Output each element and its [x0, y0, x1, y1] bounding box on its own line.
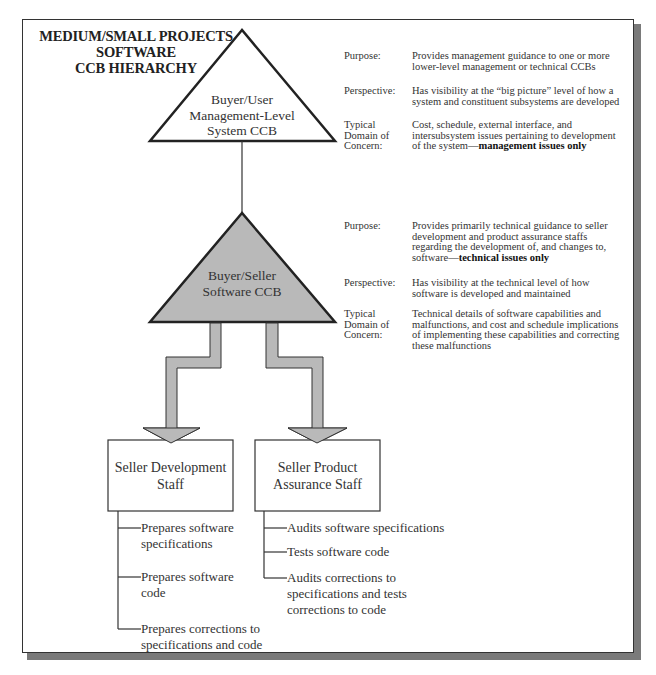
dev-task-item: Prepares software code — [141, 569, 234, 601]
desc-line: lower-level management or technical CCBs — [412, 62, 637, 73]
task-line: Prepares corrections to — [141, 621, 262, 637]
task-line: Audits software specifications — [287, 520, 444, 536]
dev-task-item: Prepares corrections to specifications a… — [141, 621, 262, 653]
seller-dev-label: Seller Development Staff — [108, 459, 233, 493]
domain-label: Typical Domain of Concern: — [344, 120, 412, 152]
purpose-text: Provides management guidance to one or m… — [412, 51, 637, 72]
task-line: specifications and code — [141, 637, 262, 653]
desc-line: Has visibility at the technical level of… — [412, 278, 637, 289]
desc-line: Technical details of software capabiliti… — [412, 309, 637, 320]
task-line: Audits corrections to — [287, 570, 407, 586]
desc-line: Provides primarily technical guidance to… — [412, 221, 637, 232]
dev-task-item: Prepares software specifications — [141, 520, 234, 552]
seller-dev-label-line: Seller Development — [108, 459, 233, 476]
purpose-label: Purpose: — [344, 51, 412, 62]
seller-pa-label-line: Assurance Staff — [255, 476, 380, 493]
desc-line: Cost, schedule, external interface, and — [412, 120, 637, 131]
arrow-to-seller-dev — [143, 323, 221, 443]
seller-pa-label-line: Seller Product — [255, 459, 380, 476]
domain-label: Typical Domain of Concern: — [344, 309, 412, 341]
label-line: Concern: — [344, 330, 412, 341]
pa-task-bracket — [264, 511, 287, 578]
perspective-label: Perspective: — [344, 86, 412, 97]
top-ccb-label: Buyer/User Management-Level System CCB — [172, 92, 312, 139]
desc-prefix: of the system— — [412, 140, 479, 151]
label-line: Typical — [344, 120, 412, 131]
pa-task-item: Tests software code — [287, 544, 389, 560]
desc-line: software—technical issues only — [412, 253, 637, 264]
purpose-label: Purpose: — [344, 221, 412, 232]
top-ccb-label-line: System CCB — [172, 123, 312, 139]
domain-text: Cost, schedule, external interface, and … — [412, 120, 637, 152]
title-line: MEDIUM/SMALL PROJECTS — [38, 28, 234, 44]
desc-line: Has visibility at the “big picture” leve… — [412, 86, 637, 97]
task-line: Prepares software — [141, 520, 234, 536]
seller-dev-label-line: Staff — [108, 476, 233, 493]
desc-line: software is developed and maintained — [412, 289, 637, 300]
mid-ccb-label-line: Buyer/Seller — [172, 268, 312, 284]
title-line: CCB HIERARCHY — [38, 60, 234, 76]
label-line: Perspective: — [344, 278, 412, 289]
desc-line: Provides management guidance to one or m… — [412, 51, 637, 62]
desc-line: system and constituent subsystems are de… — [412, 97, 637, 108]
task-line: code — [141, 585, 234, 601]
task-line: corrections to code — [287, 602, 407, 618]
mid-ccb-label-line: Software CCB — [172, 284, 312, 300]
arrow-to-seller-pa — [266, 323, 347, 443]
desc-prefix: software— — [412, 252, 459, 263]
label-line: Perspective: — [344, 86, 412, 97]
mid-ccb-label: Buyer/Seller Software CCB — [172, 268, 312, 299]
perspective-text: Has visibility at the technical level of… — [412, 278, 637, 299]
perspective-text: Has visibility at the “big picture” leve… — [412, 86, 637, 107]
label-line: Purpose: — [344, 51, 412, 62]
diagram-title: MEDIUM/SMALL PROJECTS SOFTWARE CCB HIERA… — [38, 28, 234, 76]
dev-task-bracket — [118, 511, 141, 629]
label-line: Concern: — [344, 141, 412, 152]
purpose-text: Provides primarily technical guidance to… — [412, 221, 637, 263]
task-line: specifications — [141, 536, 234, 552]
top-ccb-label-line: Buyer/User — [172, 92, 312, 108]
seller-pa-label: Seller Product Assurance Staff — [255, 459, 380, 493]
label-line: Purpose: — [344, 221, 412, 232]
task-line: specifications and tests — [287, 586, 407, 602]
label-line: Typical — [344, 309, 412, 320]
emphasis-text: technical issues only — [459, 252, 549, 263]
desc-line: these malfunctions — [412, 341, 637, 352]
title-line: SOFTWARE — [38, 44, 234, 60]
top-ccb-label-line: Management-Level — [172, 108, 312, 124]
perspective-label: Perspective: — [344, 278, 412, 289]
emphasis-text: management issues only — [479, 140, 587, 151]
task-line: Tests software code — [287, 544, 389, 560]
desc-line: of the system—management issues only — [412, 141, 637, 152]
pa-task-item: Audits software specifications — [287, 520, 444, 536]
task-line: Prepares software — [141, 569, 234, 585]
desc-line: of implementing these capabilities and c… — [412, 330, 637, 341]
pa-task-item: Audits corrections to specifications and… — [287, 570, 407, 618]
domain-text: Technical details of software capabiliti… — [412, 309, 637, 351]
